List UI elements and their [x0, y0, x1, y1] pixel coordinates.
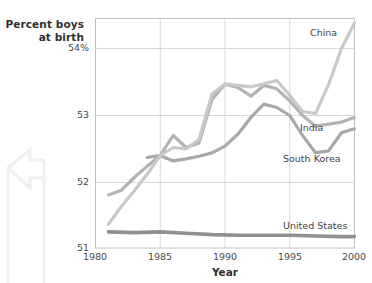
series-label-china: China [310, 27, 337, 38]
y-axis-title-line1: Percent boys [2, 18, 84, 31]
series-label-united-states: United States [283, 220, 347, 231]
series-label-india: India [300, 122, 323, 133]
y-tick-label-54: 54% [53, 42, 89, 53]
x-axis-title: Year [95, 266, 355, 278]
watermark-arrow-shape [8, 150, 44, 283]
y-tick-label-52: 52 [53, 176, 89, 187]
x-tick-label-1995: 1995 [265, 251, 315, 262]
x-tick-label-1980: 1980 [70, 251, 120, 262]
x-tick-label-2000: 2000 [329, 251, 372, 262]
y-tick-label-53: 53 [53, 109, 89, 120]
x-tick-label-1985: 1985 [135, 251, 185, 262]
chart-figure: Percent boys at birth 54% 53 52 51 1980 … [0, 0, 372, 283]
y-axis-title: Percent boys at birth [2, 18, 84, 44]
series-label-south-korea: South Korea [283, 153, 341, 164]
x-tick-label-1990: 1990 [200, 251, 250, 262]
